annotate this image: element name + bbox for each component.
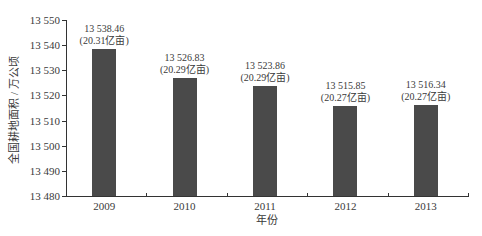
x-axis-line [66, 196, 468, 197]
y-tick-mark [62, 95, 66, 96]
x-tick-mark [468, 193, 469, 197]
y-axis-title: 全国耕地面积 / 万公顷 [5, 45, 21, 175]
bar-value-label: 13 526.83 [140, 52, 230, 64]
x-tick-mark [307, 193, 308, 197]
x-tick-mark [146, 193, 147, 197]
bar-sub-label: (20.29亿亩) [140, 64, 230, 76]
bar-sub-label: (20.29亿亩) [220, 72, 310, 84]
y-tick-label: 13 480 [4, 190, 60, 202]
bar-sub-label: (20.27亿亩) [300, 92, 390, 104]
bar-value-label: 13 515.85 [300, 80, 390, 92]
bar-2009 [92, 49, 116, 196]
y-tick-mark [62, 20, 66, 21]
x-tick-label: 2009 [74, 200, 134, 212]
y-tick-mark [62, 146, 66, 147]
bar-sub-label: (20.27亿亩) [381, 91, 471, 103]
x-tick-mark [388, 193, 389, 197]
bar-value-label: 13 523.86 [220, 60, 310, 72]
bar-2013 [414, 105, 438, 196]
y-tick-mark [62, 171, 66, 172]
bar-2011 [253, 86, 277, 196]
x-tick-label: 2013 [396, 200, 456, 212]
bar-sub-label: (20.31亿亩) [59, 35, 149, 47]
x-tick-mark [227, 193, 228, 197]
bar-chart: 13 48013 49013 50013 51013 52013 53013 5… [0, 0, 482, 236]
x-tick-label: 2012 [315, 200, 375, 212]
y-tick-mark [62, 70, 66, 71]
y-tick-label: 13 550 [4, 14, 60, 26]
x-tick-label: 2010 [155, 200, 215, 212]
y-tick-mark [62, 196, 66, 197]
x-axis-title: 年份 [237, 211, 297, 227]
bar-value-label: 13 516.34 [381, 79, 471, 91]
bar-2010 [173, 78, 197, 196]
bar-value-label: 13 538.46 [59, 23, 149, 35]
bar-2012 [333, 106, 357, 196]
y-tick-mark [62, 121, 66, 122]
